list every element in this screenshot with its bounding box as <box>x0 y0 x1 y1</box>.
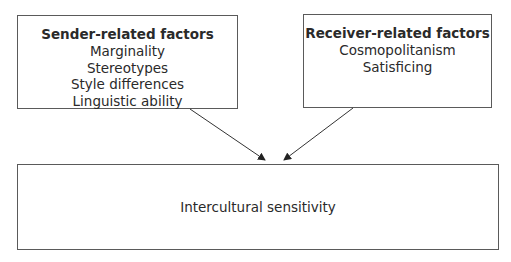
sender-to-outcome-arrow <box>190 109 265 160</box>
receiver-to-outcome-arrow <box>284 108 353 160</box>
connector-arrows <box>0 0 511 262</box>
